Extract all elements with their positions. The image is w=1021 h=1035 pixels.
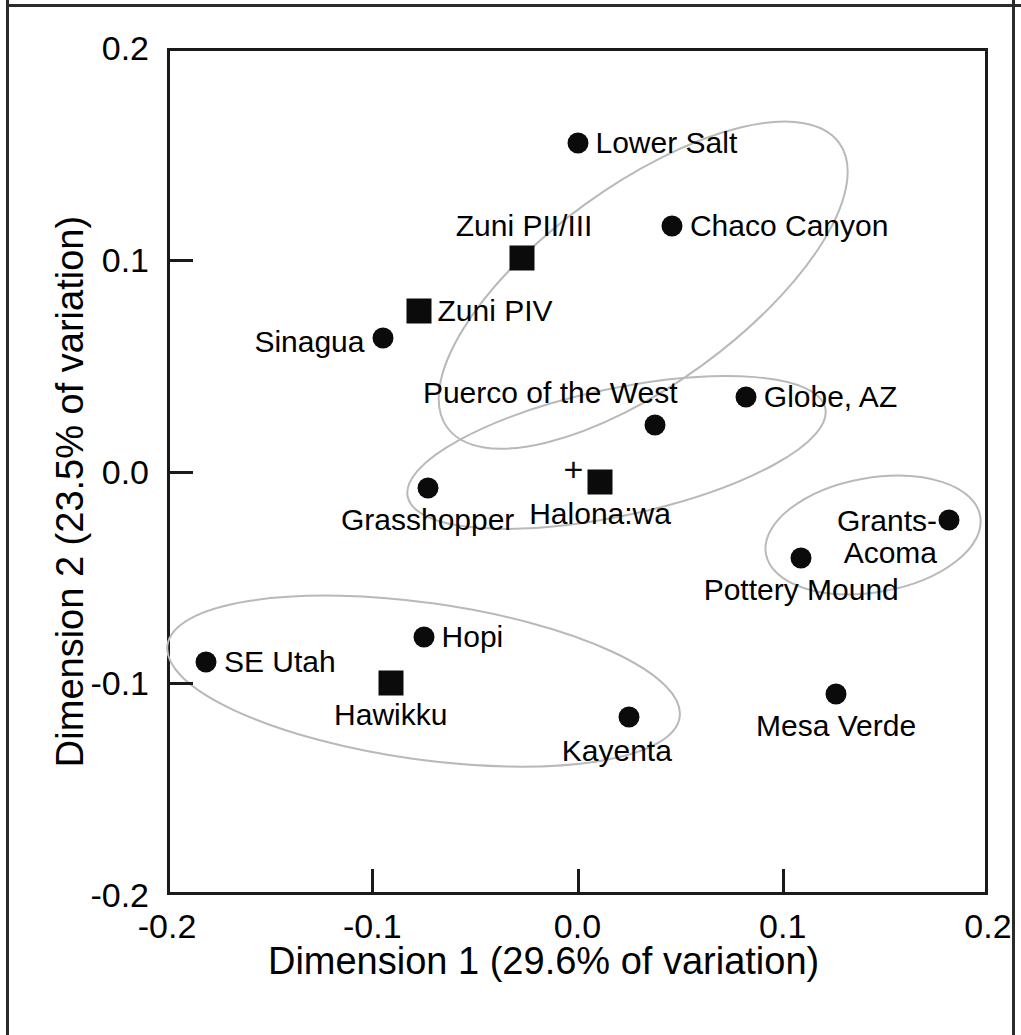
y-tick-mark	[167, 471, 193, 474]
point-label-kayenta: Kayenta	[562, 735, 672, 767]
point-label-hopi: Hopi	[442, 621, 504, 653]
point-label-hawikku: Hawikku	[334, 700, 447, 732]
point-label-puerco-of-the-west: Puerco of the West	[423, 377, 678, 409]
data-point-hawikku	[378, 671, 403, 696]
point-label-pottery-mound: Pottery Mound	[704, 575, 899, 607]
data-point-pottery-mound	[791, 548, 812, 569]
y-tick-mark	[167, 682, 193, 685]
x-tick-mark	[782, 869, 785, 895]
data-point-zuni-pii-iii	[510, 245, 535, 270]
y-tick-mark	[167, 259, 193, 262]
marker-cross-centroid: +	[563, 452, 583, 486]
scan-border-top	[6, 4, 1021, 7]
x-axis-title: Dimension 1 (29.6% of variation)	[268, 940, 819, 983]
data-point-se-utah	[195, 652, 216, 673]
y-tick-label: 0.2	[37, 29, 149, 68]
data-point-globe-az	[735, 387, 756, 408]
point-label-chaco-canyon: Chaco Canyon	[690, 210, 888, 242]
point-label-sinagua: Sinagua	[254, 326, 364, 358]
point-label-se-utah: SE Utah	[224, 646, 336, 678]
x-tick-mark	[577, 869, 580, 895]
data-point-grasshopper	[417, 478, 438, 499]
x-tick-mark	[371, 869, 374, 895]
scan-border-left	[6, 0, 9, 1035]
point-label-grasshopper: Grasshopper	[341, 505, 514, 537]
y-axis-title: Dimension 2 (23.5% of variation)	[49, 92, 92, 892]
data-point-chaco-canyon	[661, 215, 682, 236]
data-point-grants-acoma	[939, 510, 960, 531]
scan-border-right	[1012, 0, 1015, 1035]
point-label-globe-az: Globe, AZ	[764, 382, 897, 414]
data-point-hopi	[413, 626, 434, 647]
point-label-zuni-piv: Zuni PIV	[437, 295, 552, 327]
point-label-zuni-pii-iii: Zuni PII/III	[456, 210, 593, 242]
data-point-zuni-piv	[407, 298, 432, 323]
data-point-sinagua	[372, 328, 393, 349]
point-label-lower-salt: Lower Salt	[596, 128, 738, 160]
data-point-halona-wa	[588, 470, 613, 495]
x-tick-label: 0.2	[964, 907, 1011, 946]
data-point-kayenta	[618, 707, 639, 728]
chart-page: -0.2-0.10.00.10.20.20.10.0-0.1-0.2 Lower…	[0, 0, 1021, 1035]
data-point-mesa-verde	[826, 683, 847, 704]
data-point-puerco-of-the-west	[645, 414, 666, 435]
point-label-mesa-verde: Mesa Verde	[756, 710, 916, 742]
data-point-lower-salt	[567, 133, 588, 154]
point-label-halona-wa: Halona:wa	[529, 498, 671, 530]
